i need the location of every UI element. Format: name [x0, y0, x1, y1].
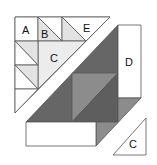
label-c-bottom: C	[129, 138, 137, 150]
bottom-rectangle	[26, 122, 96, 146]
quilt-diagram: A B E C D C	[0, 0, 157, 165]
label-e: E	[83, 22, 90, 34]
label-b: B	[41, 28, 48, 40]
label-c-top: C	[50, 52, 58, 64]
label-d: D	[125, 56, 133, 68]
label-a: A	[22, 24, 30, 36]
left-bottom-white	[15, 89, 38, 113]
